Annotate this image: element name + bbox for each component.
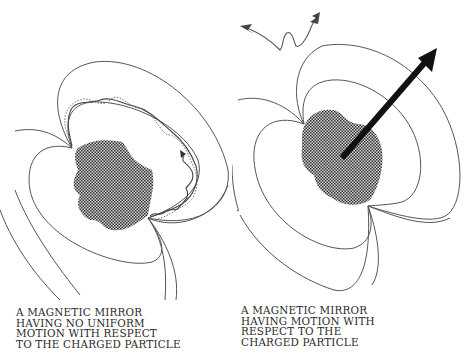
left-mirror-diagram: [0, 0, 232, 300]
panel-with-motion: A MAGNETIC MIRROR HAVING MOTION WITH RES…: [232, 0, 465, 353]
caption-line: A MAGNETIC MIRROR: [16, 307, 181, 318]
caption-line: A MAGNETIC MIRROR: [241, 305, 375, 316]
particle-outgoing-arrow: [240, 24, 254, 34]
particle-incoming-arrow: [310, 12, 320, 24]
caption-line: CHARGED PARTICLE: [241, 337, 375, 348]
caption-right: A MAGNETIC MIRROR HAVING MOTION WITH RES…: [241, 305, 375, 347]
right-mirror-diagram: [232, 0, 465, 300]
checkered-magnetic-body: [74, 140, 154, 230]
panel-no-uniform-motion: A MAGNETIC MIRROR HAVING NO UNIFORM MOTI…: [0, 0, 232, 353]
motion-vector-arrow: [342, 48, 437, 158]
caption-left: A MAGNETIC MIRROR HAVING NO UNIFORM MOTI…: [16, 307, 181, 349]
particle-path-top: [247, 15, 318, 50]
caption-line: TO THE CHARGED PARTICLE: [16, 339, 181, 350]
